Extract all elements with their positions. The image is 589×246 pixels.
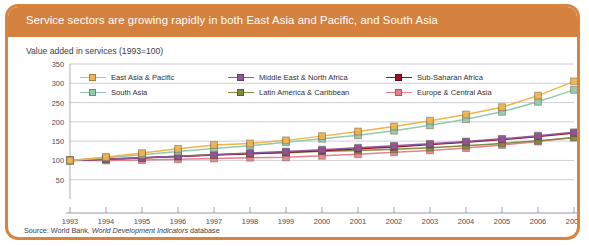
x-axis-ticks [70,207,574,213]
data-point-marker [571,78,578,85]
x-tick-label: 2006 [530,217,546,226]
data-point-marker [103,154,110,161]
data-point-marker [535,92,542,99]
data-point-marker [355,128,362,135]
y-axis-tick-labels: 50100150200250300350 [52,60,64,185]
data-point-marker [499,135,506,142]
x-tick-label: 2001 [350,217,366,226]
data-point-marker [391,123,398,130]
data-point-marker [247,150,254,157]
y-tick-label: 350 [52,60,64,69]
line-chart-svg: 50100150200250300350 1993199419951996199… [8,7,580,240]
y-tick-label: 250 [52,99,64,108]
x-tick-label: 1997 [206,217,222,226]
source-italic: World Development Indicators [92,226,188,235]
data-point-marker [355,144,362,151]
data-point-marker [283,137,290,144]
x-tick-label: 1994 [98,217,114,226]
y-tick-label: 100 [52,156,64,165]
y-tick-label: 200 [52,118,64,127]
x-tick-label: 1995 [134,217,150,226]
gridlines [70,64,574,199]
data-point-marker [391,142,398,149]
x-axis-tick-labels: 1993199419951996199719981999200020012002… [62,217,580,226]
x-tick-label: 2007 [566,217,580,226]
source-prefix: Source: World Bank, [24,226,92,235]
x-tick-label: 2004 [458,217,474,226]
data-point-marker [571,129,578,136]
data-point-marker [283,148,290,155]
data-point-marker [463,111,470,118]
x-tick-label: 2002 [386,217,402,226]
data-point-marker [139,150,146,157]
data-point-marker [427,140,434,147]
data-point-marker [499,104,506,111]
y-tick-label: 50 [56,176,64,185]
data-point-marker [247,140,254,147]
x-tick-label: 1993 [62,217,78,226]
plot-area: 50100150200250300350 1993199419951996199… [8,7,577,237]
data-point-marker [211,142,218,149]
data-point-marker [319,146,326,153]
data-point-marker [427,117,434,124]
y-tick-label: 300 [52,79,64,88]
data-point-marker [571,86,578,93]
source-suffix: database [188,226,220,235]
x-tick-label: 1998 [242,217,258,226]
data-point-marker [175,145,182,152]
x-tick-label: 2000 [314,217,330,226]
data-point-marker [319,133,326,140]
x-tick-label: 1996 [170,217,186,226]
source-note: Source: World Bank, World Development In… [24,226,220,235]
data-point-marker [463,138,470,145]
x-tick-label: 2005 [494,217,510,226]
x-tick-label: 1999 [278,217,294,226]
data-point-marker [67,157,74,164]
series-markers [67,78,578,164]
chart-panel: Service sectors are growing rapidly in b… [5,4,580,240]
y-tick-label: 150 [52,137,64,146]
data-point-marker [535,132,542,139]
x-tick-label: 2003 [422,217,438,226]
